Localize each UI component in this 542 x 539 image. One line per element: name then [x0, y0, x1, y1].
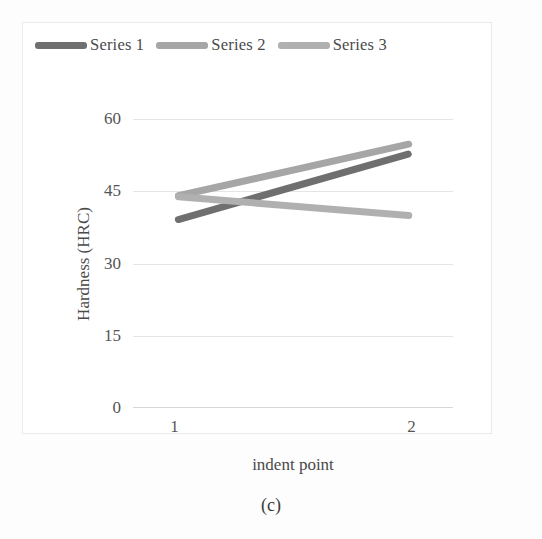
gridline-y-15: [133, 336, 453, 337]
plot-area: 01530456012: [133, 119, 453, 408]
figure-caption: (c): [0, 495, 542, 516]
x-tick-label-1: 1: [170, 417, 179, 437]
gridline-y-30: [133, 264, 453, 265]
y-tick-label-15: 15: [104, 326, 121, 346]
y-axis-title: Hardness (HRC): [73, 119, 95, 408]
y-axis-title-text: Hardness (HRC): [74, 207, 94, 321]
x-axis-baseline: [133, 407, 453, 408]
y-tick-label-60: 60: [104, 109, 121, 129]
y-tick-label-30: 30: [104, 254, 121, 274]
x-axis-title: indent point: [133, 455, 453, 475]
x-tick-label-2: 2: [407, 417, 416, 437]
legend-label-series-3: Series 3: [333, 35, 387, 55]
y-tick-label-45: 45: [104, 181, 121, 201]
legend-swatch-series-2: [156, 42, 208, 49]
chart-frame: Series 1 Series 2 Series 3 Hardness (HRC…: [22, 22, 492, 434]
gridline-y-60: [133, 119, 453, 120]
y-tick-label-0: 0: [113, 398, 122, 418]
legend-swatch-series-3: [278, 42, 330, 49]
legend-item-series-1[interactable]: Series 1: [35, 35, 156, 55]
legend-label-series-2: Series 2: [211, 35, 265, 55]
legend-item-series-2[interactable]: Series 2: [156, 35, 277, 55]
legend-item-series-3[interactable]: Series 3: [278, 35, 399, 55]
legend-swatch-series-1: [35, 42, 87, 49]
legend-label-series-1: Series 1: [90, 35, 144, 55]
chart-legend: Series 1 Series 2 Series 3: [35, 35, 399, 55]
